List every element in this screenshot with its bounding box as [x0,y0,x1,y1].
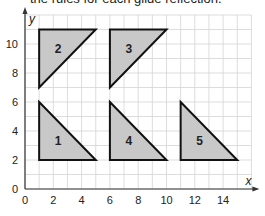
triangle-label: 5 [196,134,203,148]
triangle-label: 3 [125,42,132,56]
y-tick-label: 0 [12,183,18,195]
x-tick-label: 0 [22,194,28,206]
y-axis-label: y [28,12,36,26]
x-axis-label: x [244,174,252,188]
x-tick-label: 14 [217,194,229,206]
x-tick-label: 10 [160,194,172,206]
x-tick-label: 8 [135,194,141,206]
triangle-label: 1 [55,134,62,148]
x-tick-label: 6 [107,194,113,206]
y-tick-label: 10 [6,38,18,50]
coordinate-grid: 12345 xy 024681012140246810 [0,0,265,216]
x-axis-arrow-icon [252,187,259,192]
x-tick-label: 2 [50,194,56,206]
y-axis-arrow-icon [23,7,28,14]
x-tick-label: 4 [79,194,85,206]
x-tick-label: 12 [189,194,201,206]
triangle-label: 4 [125,134,132,148]
y-tick-label: 2 [12,154,18,166]
y-tick-label: 6 [12,96,18,108]
triangle-label: 2 [55,42,62,56]
y-tick-label: 8 [12,67,18,79]
y-tick-label: 4 [12,125,18,137]
